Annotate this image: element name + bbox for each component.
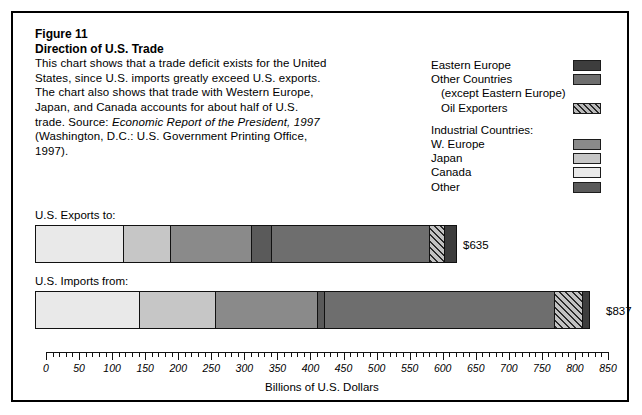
axis-tick-minor: [588, 352, 589, 357]
axis-tick-label: 600: [434, 362, 452, 374]
axis-tick-minor: [172, 352, 173, 357]
legend-item-other-industrial: Other: [431, 180, 616, 194]
axis-tick-minor: [119, 352, 120, 357]
exports-bar-title: U.S. Exports to:: [35, 209, 116, 221]
legend-item-oil-exporters: Oil Exporters: [431, 101, 616, 115]
bar-segment-canada: [36, 226, 124, 262]
legend-item-w-europe: W. Europe: [431, 137, 616, 151]
axis-tick-minor: [456, 352, 457, 357]
chart-legend: Eastern Europe Other Countries (except E…: [431, 58, 616, 194]
bar-segment-other-countries: [272, 226, 430, 262]
legend-swatch-canada: [573, 167, 601, 178]
exports-total-label: $635: [463, 239, 489, 251]
legend-group-heading: Industrial Countries:: [431, 123, 533, 137]
axis-tick-label: 650: [467, 362, 485, 374]
legend-label: Eastern Europe: [431, 58, 511, 72]
axis-tick-label: 50: [73, 362, 85, 374]
legend-swatch-w-europe: [573, 139, 601, 150]
axis-tick-minor: [185, 352, 186, 357]
axis-tick-minor: [86, 352, 87, 357]
caption-source-line-2: (Washington, D.C.: U.S. Government Print…: [35, 129, 425, 144]
axis-tick-minor: [330, 352, 331, 357]
legend-swatch-other-industrial: [573, 182, 601, 193]
axis-tick-minor: [198, 352, 199, 357]
axis-tick-minor: [191, 352, 192, 357]
bar-segment-japan: [140, 292, 216, 328]
axis-tick-major: [509, 352, 510, 360]
axis-tick-minor: [337, 352, 338, 357]
bar-segment-oil-exporters: [555, 292, 583, 328]
imports-bar: [35, 291, 590, 329]
axis-tick-label: 400: [302, 362, 320, 374]
axis-tick-minor: [132, 352, 133, 357]
axis-tick-minor: [403, 352, 404, 357]
axis-tick-minor: [59, 352, 60, 357]
axis-tick-minor: [383, 352, 384, 357]
axis-tick-major: [542, 352, 543, 360]
axis-tick-minor: [416, 352, 417, 357]
axis-tick-minor: [158, 352, 159, 357]
axis-tick-major: [46, 352, 47, 360]
axis-tick-minor: [284, 352, 285, 357]
axis-tick-minor: [264, 352, 265, 357]
axis-tick-minor: [225, 352, 226, 357]
axis-tick-minor: [125, 352, 126, 357]
bar-segment-other-countries: [325, 292, 555, 328]
axis-tick-minor: [469, 352, 470, 357]
axis-tick-minor: [429, 352, 430, 357]
axis-tick-major: [277, 352, 278, 360]
axis-tick-minor: [436, 352, 437, 357]
figure-caption: Figure 11 Direction of U.S. Trade This c…: [35, 27, 425, 158]
legend-swatch-japan: [573, 153, 601, 164]
axis-tick-minor: [99, 352, 100, 357]
axis-tick-major: [377, 352, 378, 360]
axis-tick-minor: [271, 352, 272, 357]
legend-swatch-eastern-europe: [573, 60, 601, 71]
axis-tick-minor: [304, 352, 305, 357]
axis-tick-minor: [324, 352, 325, 357]
legend-heading-industrial-countries: Industrial Countries:: [431, 123, 616, 137]
axis-tick-label: 800: [566, 362, 584, 374]
axis-tick-minor: [66, 352, 67, 357]
axis-tick-major: [310, 352, 311, 360]
x-axis: 0501001502002503003504004505005506006507…: [46, 352, 608, 353]
legend-label: Oil Exporters: [441, 101, 507, 115]
axis-tick-minor: [92, 352, 93, 357]
axis-tick-minor: [548, 352, 549, 357]
axis-tick-minor: [205, 352, 206, 357]
bar-segment-oil-exporters: [430, 226, 445, 262]
bar-segment-canada: [36, 292, 140, 328]
legend-label: Canada: [431, 165, 471, 179]
axis-tick-major: [608, 352, 609, 360]
axis-tick-label: 700: [500, 362, 518, 374]
source-title: Economic Report of the President, 1997: [112, 116, 320, 128]
legend-label: Japan: [431, 151, 462, 165]
axis-tick-minor: [582, 352, 583, 357]
legend-swatch-other-countries: [573, 74, 601, 85]
axis-tick-major: [112, 352, 113, 360]
axis-tick-minor: [601, 352, 602, 357]
axis-tick-minor: [258, 352, 259, 357]
bar-segment-other: [252, 226, 272, 262]
axis-tick-label: 850: [599, 362, 617, 374]
axis-tick-minor: [317, 352, 318, 357]
axis-tick-minor: [562, 352, 563, 357]
axis-tick-minor: [555, 352, 556, 357]
axis-tick-minor: [370, 352, 371, 357]
axis-tick-minor: [489, 352, 490, 357]
axis-tick-minor: [139, 352, 140, 357]
caption-line-3: The chart also shows that trade with Wes…: [35, 85, 425, 100]
legend-item-canada: Canada: [431, 165, 616, 179]
axis-tick-minor: [423, 352, 424, 357]
axis-tick-minor: [463, 352, 464, 357]
axis-tick-label: 300: [236, 362, 254, 374]
axis-tick-minor: [72, 352, 73, 357]
axis-tick-label: 350: [269, 362, 287, 374]
axis-tick-label: 750: [533, 362, 551, 374]
bar-segment-w-europe: [171, 226, 252, 262]
legend-spacer: [431, 115, 616, 123]
axis-tick-label: 100: [103, 362, 121, 374]
axis-tick-minor: [482, 352, 483, 357]
imports-bar-title: U.S. Imports from:: [35, 275, 128, 287]
figure-title: Direction of U.S. Trade: [35, 42, 425, 57]
